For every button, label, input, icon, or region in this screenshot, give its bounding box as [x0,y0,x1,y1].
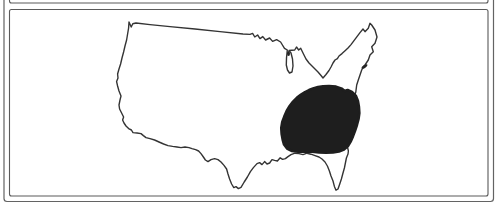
map-panel-border [10,10,489,197]
outer-frame-rule [4,0,494,202]
southeast-shaded-region [281,86,359,153]
map-figure [0,0,498,212]
long-island-mark [361,63,368,69]
lake-michigan-mark [287,51,290,56]
figure-canvas [0,0,498,212]
upper-panel-border [10,0,489,3]
